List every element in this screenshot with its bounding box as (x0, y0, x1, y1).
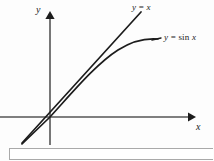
curve-label-operator: = (168, 32, 178, 42)
curve-label-function: sin (178, 32, 192, 42)
curve-label-argument: x (192, 32, 196, 42)
line-y-equals-x (22, 12, 141, 143)
y-axis-label: y (36, 5, 40, 15)
x-axis-arrowhead (188, 112, 196, 121)
line-label-expression: x (146, 2, 150, 12)
line-label-y-equals-x: y = x (132, 3, 151, 12)
x-axis-label: x (196, 122, 200, 132)
figure-container: y x y = x y = sin x (0, 0, 214, 161)
curve-label-y-equals-sin-x: y = sin x (164, 33, 196, 42)
caption-box (9, 148, 213, 160)
y-axis-arrowhead (45, 11, 54, 19)
curve-y-equals-sin-x (22, 39, 158, 144)
graph-canvas (0, 0, 214, 161)
line-label-operator: = (136, 2, 146, 12)
